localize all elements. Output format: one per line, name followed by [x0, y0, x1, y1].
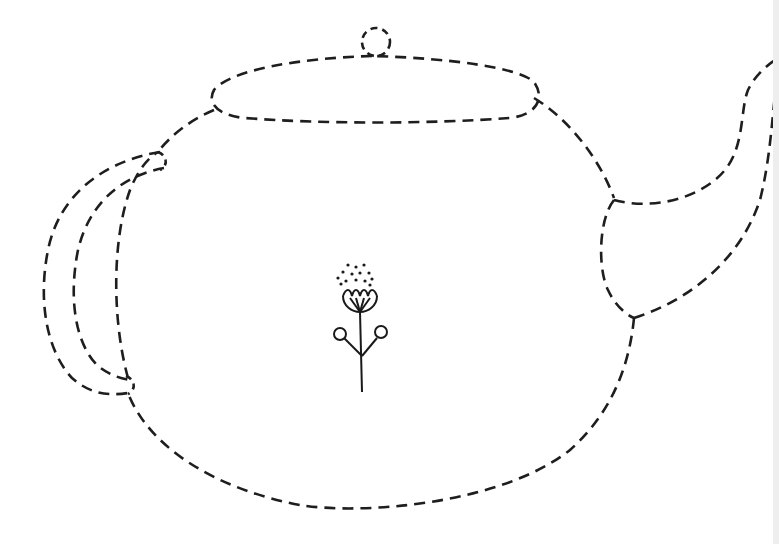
body-shoulder-right: [534, 98, 614, 198]
handle-outer: [44, 152, 160, 394]
teapot-lid: [212, 56, 539, 123]
page-edge-shadow: [773, 0, 779, 544]
spout-lower: [634, 95, 775, 318]
body-shoulder-left: [158, 110, 214, 152]
spout-upper: [614, 58, 779, 204]
spout-join: [601, 200, 634, 318]
handle-inner: [74, 168, 164, 380]
teapot-drawing: [0, 0, 779, 544]
lid-knob: [362, 28, 390, 56]
body-left-side: [116, 152, 158, 378]
flower-decoration: [334, 263, 387, 392]
teapot-body: [128, 318, 634, 508]
